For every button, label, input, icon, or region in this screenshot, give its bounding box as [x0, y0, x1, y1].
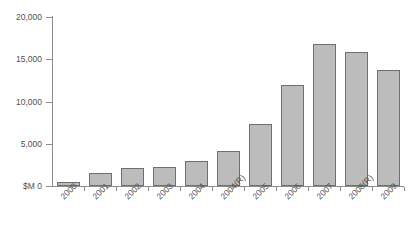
bar	[377, 70, 400, 186]
y-axis-tick-label: 10,000	[16, 97, 46, 106]
bar	[185, 161, 208, 186]
y-axis-tick-label: 15,000	[16, 55, 46, 64]
bar-chart: $M 05,00010,00015,00020,000 200020012002…	[0, 0, 412, 245]
x-axis-tick	[148, 187, 149, 191]
y-axis-tick	[46, 186, 52, 187]
x-axis-tick	[372, 187, 373, 191]
y-axis-tick	[46, 17, 52, 18]
y-axis-tick	[46, 59, 52, 60]
y-axis-tick	[46, 102, 52, 103]
x-axis-tick	[116, 187, 117, 191]
y-axis-tick-label: 5,000	[21, 140, 46, 149]
bar	[281, 85, 304, 186]
y-axis-line	[52, 16, 53, 187]
y-axis-tick-label: $M 0	[23, 182, 46, 191]
x-axis-tick	[212, 187, 213, 191]
x-axis-tick	[244, 187, 245, 191]
bar	[345, 52, 368, 186]
x-axis-tick	[276, 187, 277, 191]
x-axis-tick	[84, 187, 85, 191]
y-axis-tick-label: 20,000	[16, 13, 46, 22]
x-axis-tick	[404, 187, 405, 191]
x-axis-tick	[180, 187, 181, 191]
bar	[313, 44, 336, 186]
x-axis-tick	[308, 187, 309, 191]
y-axis-tick	[46, 144, 52, 145]
bar	[249, 124, 272, 186]
x-axis-tick	[340, 187, 341, 191]
